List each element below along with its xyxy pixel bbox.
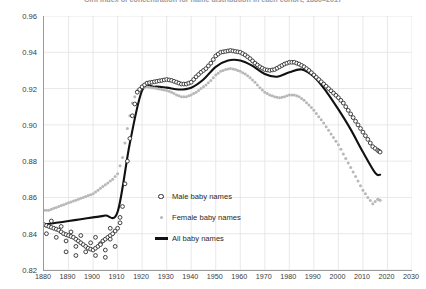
x-tick-1890: 1890 [60,272,76,281]
female-marker-icon [150,216,172,219]
all-line-icon [150,237,172,239]
x-tick-2030: 2030 [403,272,419,281]
legend-item-male: Male baby names [150,186,300,207]
chart-container: Gini index of concentration for name dis… [0,0,426,289]
x-tick-1900: 1900 [84,272,100,281]
chart-legend: Male baby names Female baby names All ba… [150,186,300,249]
y-tick-0.96: 0.96 [22,12,37,21]
x-tick-2020: 2020 [378,272,394,281]
chart-title: Gini index of concentration for name dis… [0,0,426,3]
male-marker-icon [150,194,172,199]
y-tick-0.86: 0.86 [22,193,37,202]
x-tick-1910: 1910 [109,272,125,281]
x-axis-tick-labels: 1880189019001910192019301940195019601970… [0,272,426,286]
y-tick-0.94: 0.94 [22,48,37,57]
x-tick-1880: 1880 [35,272,51,281]
y-tick-0.84: 0.84 [22,229,37,238]
x-tick-1980: 1980 [280,272,296,281]
x-tick-1990: 1990 [305,272,321,281]
x-tick-2000: 2000 [329,272,345,281]
x-tick-1920: 1920 [133,272,149,281]
legend-item-all: All baby names [150,228,300,249]
x-tick-1960: 1960 [231,272,247,281]
legend-item-female: Female baby names [150,207,300,228]
y-axis-tick-labels: 0.820.840.860.880.900.920.940.96 [0,0,41,289]
x-tick-1950: 1950 [207,272,223,281]
legend-label-female: Female baby names [172,213,241,222]
y-tick-0.88: 0.88 [22,157,37,166]
legend-label-male: Male baby names [172,192,232,201]
y-tick-0.92: 0.92 [22,84,37,93]
x-tick-1970: 1970 [256,272,272,281]
x-tick-1930: 1930 [158,272,174,281]
x-tick-1940: 1940 [182,272,198,281]
x-tick-2010: 2010 [354,272,370,281]
y-tick-0.90: 0.90 [22,120,37,129]
legend-label-all: All baby names [172,234,224,243]
